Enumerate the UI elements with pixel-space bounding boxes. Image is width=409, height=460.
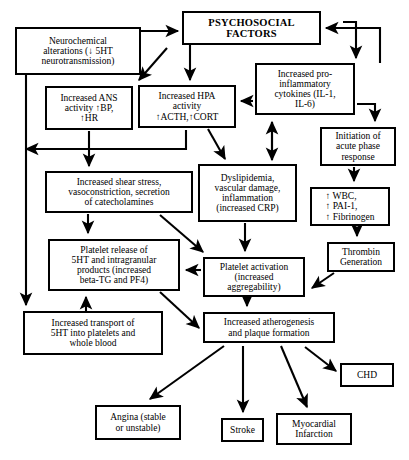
node-label-increased-hpa-activity: Increased HPA activity ↑ACTH,↑CORT: [156, 91, 219, 121]
node-label-myocardial-infarction: Myocardial Infarction: [292, 419, 336, 439]
node-label-stroke: Stroke: [230, 425, 255, 435]
node-chd: CHD: [340, 363, 394, 387]
node-increased-atherogenesis: Increased atherogenesis and plaque forma…: [203, 312, 335, 343]
edge-cytokines-to-psychosocial: [326, 28, 380, 63]
node-label-psychosocial-factors: PSYCHOSOCIAL FACTORS: [208, 17, 294, 39]
node-increased-transport-5ht: Increased transport of 5HT into platelet…: [23, 311, 163, 355]
node-increased-shear-stress: Increased shear stress, vasoconstriction…: [45, 171, 193, 213]
node-label-thrombin-generation: Thrombin Generation: [340, 247, 382, 267]
edge-psychosocial-to-ans: [139, 48, 167, 80]
edge-ans-to-neurochemical-feedback: [26, 130, 186, 149]
edge-atherogenesis-to-mi: [281, 346, 307, 407]
node-dyslipidemia: Dyslipidemia, vascular damage, inflammat…: [198, 164, 297, 222]
psychosocial-chd-flowchart: PSYCHOSOCIAL FACTORSNeurochemical altera…: [0, 0, 409, 460]
node-platelet-release: Platelet release of 5HT and intragranula…: [48, 239, 180, 291]
node-acute-phase-response: Initiation of acute phase response: [320, 127, 396, 166]
node-neurochemical-alterations: Neurochemical alterations (↓ 5HT neurotr…: [15, 27, 141, 75]
node-platelet-activation: Platelet activation (increased aggregabi…: [203, 257, 305, 297]
node-increased-ans-activity: Increased ANS activity ↑BP, ↑HR: [45, 86, 133, 130]
node-angina: Angina (stable or unstable): [95, 405, 181, 440]
edge-cytokines-to-acute-phase: [357, 104, 375, 121]
node-label-platelet-release: Platelet release of 5HT and intragranula…: [72, 245, 157, 285]
node-increased-cytokines: Increased pro- inflammatory cytokines (I…: [255, 63, 355, 115]
node-label-dyslipidemia: Dyslipidemia, vascular damage, inflammat…: [215, 173, 281, 213]
node-label-increased-shear-stress: Increased shear stress, vasoconstriction…: [68, 177, 169, 207]
edge-atherogenesis-to-chd: [305, 347, 336, 371]
edge-hpa-to-dyslipidemia: [208, 129, 225, 159]
node-label-angina: Angina (stable or unstable): [110, 412, 166, 432]
edge-psychosocial-to-cytokines: [343, 22, 356, 58]
node-psychosocial-factors: PSYCHOSOCIAL FACTORS: [182, 11, 321, 45]
node-label-increased-cytokines: Increased pro- inflammatory cytokines (I…: [274, 69, 335, 109]
node-label-increased-atherogenesis: Increased atherogenesis and plaque forma…: [224, 317, 314, 337]
node-myocardial-infarction: Myocardial Infarction: [276, 413, 352, 445]
edge-thrombin-to-platelet-activation: [312, 273, 334, 288]
node-label-neurochemical-alterations: Neurochemical alterations (↓ 5HT neurotr…: [42, 36, 115, 66]
node-label-wbc-pai1-fibrinogen: ↑ WBC, ↑ PAI-1, ↑ Fibrinogen: [326, 191, 375, 221]
node-label-increased-ans-activity: Increased ANS activity ↑BP, ↑HR: [60, 93, 117, 123]
node-label-platelet-activation: Platelet activation (increased aggregabi…: [220, 262, 288, 292]
edge-platelet-release-to-atherogenesis: [160, 292, 199, 328]
node-stroke: Stroke: [221, 418, 264, 442]
node-label-acute-phase-response: Initiation of acute phase response: [335, 131, 380, 161]
node-wbc-pai1-fibrinogen: ↑ WBC, ↑ PAI-1, ↑ Fibrinogen: [310, 187, 390, 226]
node-increased-hpa-activity: Increased HPA activity ↑ACTH,↑CORT: [138, 85, 236, 128]
node-thrombin-generation: Thrombin Generation: [327, 242, 395, 272]
node-label-increased-transport-5ht: Increased transport of 5HT into platelet…: [51, 318, 136, 348]
node-label-chd: CHD: [357, 370, 377, 380]
